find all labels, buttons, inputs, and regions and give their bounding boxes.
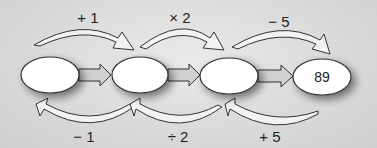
box-3 xyxy=(200,58,258,94)
bottom-op-3: + 5 xyxy=(259,128,280,145)
straight-arrows xyxy=(79,64,293,87)
top-curved-arrows xyxy=(34,29,330,54)
box-2 xyxy=(112,57,168,93)
top-op-3: − 5 xyxy=(268,13,289,30)
bottom-op-2: ÷ 2 xyxy=(168,128,189,145)
top-op-2: × 2 xyxy=(169,9,190,26)
bottom-curved-arrows xyxy=(36,98,318,125)
box-4-value: 89 xyxy=(314,69,330,85)
box-1 xyxy=(21,57,79,93)
top-op-1: + 1 xyxy=(77,9,98,26)
bottom-op-1: − 1 xyxy=(73,128,94,145)
number-chain-diagram: 89 + 1 × 2 − 5 − 1 ÷ 2 + 5 xyxy=(0,0,377,148)
